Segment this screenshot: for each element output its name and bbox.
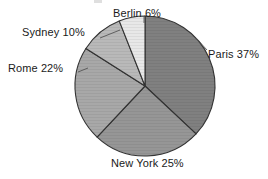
pie-label-new-york: New York 25% [111,158,184,169]
pie-label-rome: Rome 22% [8,63,63,74]
pie-label-sydney: Sydney 10% [22,27,85,38]
pie-label-paris: Paris 37% [208,49,259,60]
pie-label-berlin: Berlin 6% [113,8,161,19]
pie-texture-overlay [75,16,215,156]
pie-chart-figure: Berlin 6% Sydney 10% Rome 22% Paris 37% … [0,0,268,179]
